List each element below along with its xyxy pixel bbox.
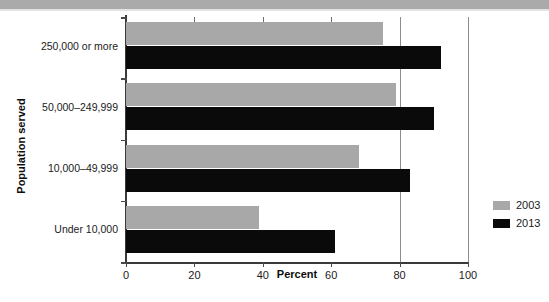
chart-legend: 20032013 [493,196,549,232]
bar-2003-2 [126,145,359,168]
x-axis-tick [468,262,469,267]
legend-swatch-icon [493,219,510,228]
bar-2013-3 [126,230,335,253]
x-axis-tick [400,262,401,267]
y-axis-tick [121,262,127,264]
chart-figure: 020406080100 250,000 or more50,000–249,9… [0,0,549,302]
legend-label: 2013 [516,217,540,229]
x-axis-tick [331,262,332,267]
x-axis-line [125,262,469,264]
legend-item-2013: 2013 [493,214,549,232]
bar-2013-1 [126,107,434,130]
gridline [468,17,469,262]
plot-area: 020406080100 [126,17,468,262]
legend-swatch-icon [493,201,510,210]
bar-2003-3 [126,206,259,229]
y-axis-category-label: Under 10,000 [10,223,118,235]
y-axis-title: Population served [15,81,27,211]
x-axis-title: Percent [126,268,468,280]
legend-item-2003: 2003 [493,196,549,214]
x-axis-tick [194,262,195,267]
legend-label: 2003 [516,199,540,211]
top-band-edge [0,9,549,11]
bar-2003-1 [126,83,396,106]
top-decorative-band [0,0,549,9]
bar-2003-0 [126,22,383,45]
bar-2013-2 [126,169,410,192]
y-axis-category-label: 250,000 or more [10,40,118,52]
bar-2013-0 [126,46,441,69]
x-axis-tick [263,262,264,267]
